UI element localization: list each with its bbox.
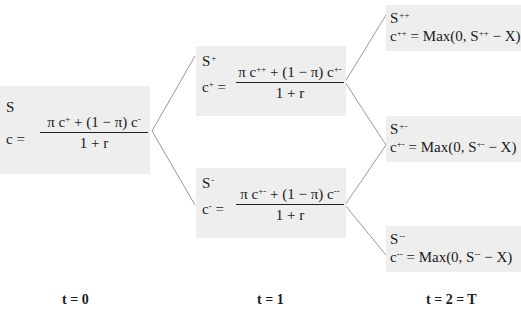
root-lhs-text: c = [6,131,25,147]
downdown-payoff: c-- = Max(0, S-- − X) [390,250,512,265]
node-updown: S+- c+- = Max(0, S+- − X) [386,116,521,162]
root-lhs: c = [6,132,25,147]
down-denominator: 1 + r [236,208,344,223]
down-lhs: c- = [202,202,224,217]
updown-payoff: c+- = Max(0, S+- − X) [390,140,516,155]
edge-down-downdown [345,205,386,255]
edge-root-down [152,131,195,205]
down-price-label: S- [202,176,214,191]
root-symbol: S [6,99,14,115]
node-upup: S++ c++ = Max(0, S++ − X) [386,5,521,51]
root-numerator: π c+ + (1 − π) c- [40,114,148,130]
root-fraction: π c+ + (1 − π) c- 1 + r [40,114,148,151]
root-fraction-bar [40,132,148,133]
edge-down-updown [345,145,386,205]
up-numerator: π c++ + (1 − π) c+- [236,64,344,80]
down-numerator: π c+- + (1 − π) c-- [236,186,344,202]
edge-root-up [152,56,195,131]
node-up: S+ c+ = π c++ + (1 − π) c+- 1 + r [196,46,346,116]
root-denominator: 1 + r [40,136,148,151]
up-price-label: S+ [202,54,216,69]
root-price-label: S [6,100,14,115]
edge-up-updown [345,82,386,145]
up-lhs: c+ = [202,80,226,95]
up-denominator: 1 + r [236,86,344,101]
time-label-t0: t = 0 [62,292,89,308]
time-label-t2: t = 2 = T [426,292,477,308]
edge-up-upup [345,15,386,82]
down-fraction-bar [236,204,344,205]
up-fraction-bar [236,82,344,83]
updown-price-label: S+- [390,122,407,137]
time-label-t1: t = 1 [257,292,284,308]
node-root: S c = π c+ + (1 − π) c- 1 + r [0,86,150,174]
upup-price-label: S++ [390,11,410,26]
downdown-price-label: S-- [390,232,405,247]
down-fraction: π c+- + (1 − π) c-- 1 + r [236,186,344,223]
upup-payoff: c++ = Max(0, S++ − X) [390,29,521,44]
node-downdown: S-- c-- = Max(0, S-- − X) [386,226,521,272]
up-fraction: π c++ + (1 − π) c+- 1 + r [236,64,344,101]
node-down: S- c- = π c+- + (1 − π) c-- 1 + r [196,168,346,238]
